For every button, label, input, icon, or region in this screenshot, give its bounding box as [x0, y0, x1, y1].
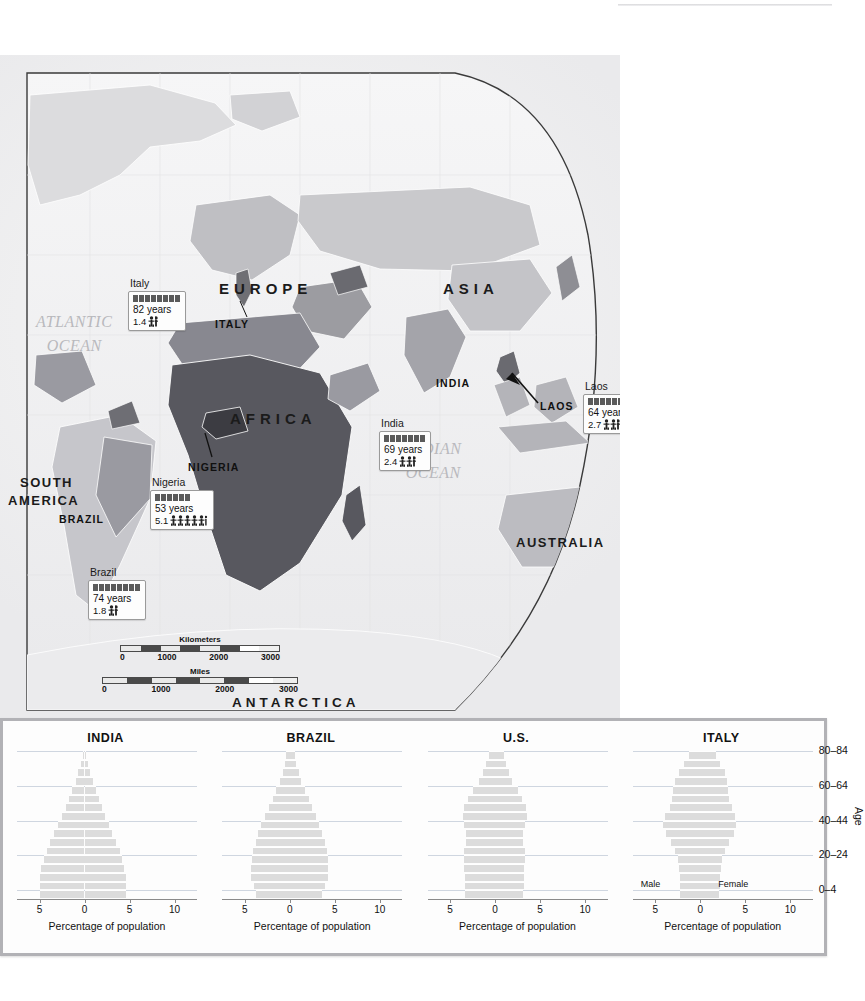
pyramid-bar-male [276, 786, 290, 794]
pyramid-bar-female [495, 882, 524, 890]
continent-label-antarctica: ANTARCTICA [232, 695, 360, 710]
pyramid-bar-row [17, 803, 197, 811]
pyramid-bar-female [495, 890, 523, 898]
pyramid-bar-row [633, 777, 813, 785]
pyramid-bar-male [40, 890, 84, 898]
pyramid-bar-female [85, 795, 99, 803]
pyramid-bar-male [464, 821, 495, 829]
pyramid-x-tick [585, 899, 586, 903]
pyramid-bar-row [17, 786, 197, 794]
pyramid-bar-row [633, 786, 813, 794]
continent-label-south-america: SOUTH [20, 475, 73, 490]
country-label-nigeria: NIGERIA [188, 461, 239, 473]
callout-laos: Laos 64 years 2.7 [583, 380, 620, 434]
scale-tick: 1000 [158, 652, 177, 662]
pyramid-bar-female [290, 829, 322, 837]
pyramid-bar-male [44, 855, 85, 863]
pyramid-bar-row [222, 829, 402, 837]
pyramid-bar-male [689, 751, 700, 759]
pyramid-x-tick-label: 5 [447, 904, 453, 915]
pyramid-bar-male [283, 768, 290, 776]
pyramid-bar-male [269, 803, 290, 811]
country-label-brazil: BRAZIL [59, 513, 104, 525]
continent-label-africa: AFRICA [230, 410, 317, 427]
pyramid-bar-female [290, 777, 302, 785]
fertility-row: 2.7 [588, 419, 620, 430]
callout-italy: Italy 82 years 1.4 [128, 277, 186, 331]
pyramid-bar-male [680, 890, 700, 898]
pyramid-x-caption: Percentage of population [17, 920, 197, 932]
pyramid-x-tick-label: 0 [697, 904, 703, 915]
fertility-row: 1.4 [133, 316, 180, 327]
pyramid-bar-female [495, 821, 525, 829]
pyramid-bar-female [290, 838, 325, 846]
pyramid-x-tick [40, 899, 41, 903]
pyramid-bar-row [633, 855, 813, 863]
pyramid-x-tick [130, 899, 131, 903]
pyramid-x-tick-label: 5 [742, 904, 748, 915]
pyramid-bar-male [40, 873, 85, 881]
pyramid-bar-female [85, 838, 117, 846]
pyramid-bar-female [495, 864, 524, 872]
fertility-value: 2.7 [588, 420, 601, 430]
pyramid-bar-row [17, 864, 197, 872]
people-icons [108, 605, 119, 616]
pyramid-x-tick-label: 0 [492, 904, 498, 915]
pyramid-bar-row [428, 795, 608, 803]
pyramid-bar-female [290, 751, 295, 759]
pyramid-age-tick-label: 0–4 [819, 883, 837, 895]
pyramid-bar-row [222, 882, 402, 890]
pyramid-x-tick-label: 10 [374, 904, 385, 915]
scale-miles-bar [102, 677, 298, 684]
pyramid-bar-female [495, 795, 522, 803]
pyramid-bar-male [47, 847, 85, 855]
pyramid-bar-male [479, 777, 495, 785]
pyramid-bar-row [222, 821, 402, 829]
pyramid-bar-female [290, 760, 296, 768]
pyramid-bar-male [254, 882, 290, 890]
pyramid-bar-row [222, 777, 402, 785]
pyramid-bar-row [428, 864, 608, 872]
pyramid-bar-female [700, 864, 721, 872]
pyramid-bar-female [495, 786, 518, 794]
pyramid-bar-female [85, 873, 126, 881]
pyramid-x-tick [495, 899, 496, 903]
scale-kilometers: Kilometers 0 1000 2000 3000 [120, 635, 280, 662]
pyramid-age-axis-title: Age [853, 807, 865, 826]
pyramid-bar-male [678, 855, 701, 863]
map-scale: Kilometers 0 1000 2000 3000 Miles [100, 635, 300, 694]
pyramid-x-axis [222, 899, 402, 900]
india-pyramid: INDIA50510Percentage of population [3, 721, 208, 953]
callout-box: 53 years 5.1 [150, 490, 214, 530]
pyramid-bar-male [465, 873, 495, 881]
pyramid-age-tick-label: 60–64 [819, 779, 848, 791]
pyramid-bar-row [633, 821, 813, 829]
callout-brazil: Brazil 74 years 1.8 [88, 566, 146, 620]
pyramid-bar-male [261, 821, 290, 829]
pyramid-bar-male [463, 812, 495, 820]
pyramid-x-tick [245, 899, 246, 903]
pyramid-bar-row [633, 795, 813, 803]
pyramid-bar-female [290, 890, 322, 898]
ocean-label-atlantic: ATLANTIC OCEAN [36, 310, 112, 358]
pyramid-bar-female [290, 864, 328, 872]
pyramid-x-tick [175, 899, 176, 903]
pyramid-bar-female [290, 803, 313, 811]
scale-miles-ticks: 0 1000 2000 3000 [102, 684, 298, 694]
pyramid-x-tick [450, 899, 451, 903]
pyramid-x-axis [428, 899, 608, 900]
pyramid-bar-male [251, 873, 290, 881]
pyramid-bar-row [633, 829, 813, 837]
fertility-row: 2.4 [384, 456, 425, 467]
pyramid-x-tick-label: 5 [537, 904, 543, 915]
pyramid-male-label: Male [641, 879, 661, 889]
pyramid-bar-female [495, 838, 523, 846]
pyramid-bar-female [85, 803, 102, 811]
pyramid-bar-row [222, 751, 402, 759]
pyramid-bar-female [700, 890, 719, 898]
pyramid-bar-row [428, 882, 608, 890]
pyramid-bar-female [700, 760, 720, 768]
pyramid-plot-area: 50510Percentage of population [222, 751, 403, 899]
pyramid-bar-male [464, 847, 495, 855]
pyramid-age-tick-label: 20–24 [819, 848, 848, 860]
